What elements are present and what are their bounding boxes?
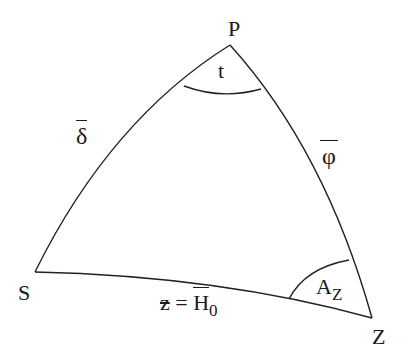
h-symbol: H <box>193 287 209 315</box>
h-subscript: 0 <box>209 301 218 320</box>
angle-arc-t <box>184 86 261 94</box>
side-label-zenith-distance: z = H0 <box>160 292 218 314</box>
side-ps <box>35 45 230 272</box>
azimuth-subscript: Z <box>332 285 342 304</box>
phi-symbol: φ <box>320 140 338 169</box>
side-label-delta: δ <box>76 124 87 148</box>
zenith-distance-prefix: z <box>160 290 170 315</box>
delta-symbol: δ <box>76 120 87 149</box>
angle-label-t: t <box>218 60 224 82</box>
angle-label-az: AZ <box>316 276 342 298</box>
vertex-label-p: P <box>228 18 240 40</box>
side-label-phi: φ <box>320 144 338 168</box>
vertex-label-s: S <box>18 282 30 304</box>
azimuth-symbol: A <box>316 274 332 299</box>
side-pz <box>230 45 372 318</box>
equals-sign: = <box>170 290 193 315</box>
vertex-label-z: Z <box>372 326 385 348</box>
